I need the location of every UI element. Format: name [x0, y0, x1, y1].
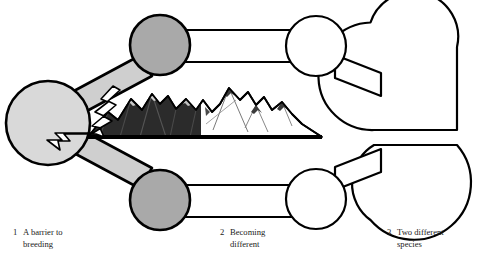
lower-diverging-population-shape [286, 169, 346, 229]
connector-upper-horizontal [178, 30, 300, 62]
speciation-diagram-canvas [0, 0, 484, 263]
ancestral-population-shape [6, 81, 90, 165]
lower-split-population-shape [130, 170, 190, 230]
connector-lower-horizontal [178, 185, 300, 217]
speciation-figure: 1A barrier to breeding 2Becoming differe… [0, 0, 484, 263]
upper-diverging-population-shape [286, 16, 346, 76]
upper-split-population-shape [130, 15, 190, 75]
